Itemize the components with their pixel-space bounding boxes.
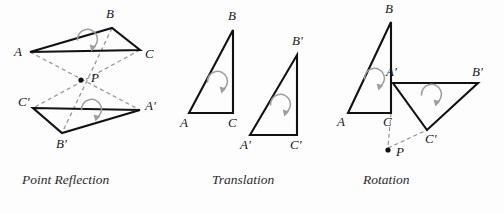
rotation-arrow-icon-preimage — [207, 71, 227, 93]
rotation-arrow-icon-image — [270, 94, 290, 116]
vertex-label-B: B — [228, 8, 236, 23]
vertex-label-A-prime: A' — [144, 98, 156, 113]
triangle-A-prime-B-prime-C-prime-image — [393, 83, 478, 130]
rotation-arrow-icon-upper — [77, 29, 97, 51]
rotation-arrow-icon-image — [421, 84, 441, 106]
vertex-label-C: C — [145, 46, 154, 61]
vertex-label-B: B — [106, 6, 114, 21]
panel-rotation: A B C A' B' C' P Rotation — [336, 1, 483, 187]
caption-translation: Translation — [212, 172, 275, 187]
vertex-label-A: A — [336, 114, 345, 129]
vertex-label-B-prime: B' — [472, 64, 483, 79]
center-point-P-dot — [78, 77, 83, 82]
connector-P-to-C-prime — [388, 130, 427, 148]
triangle-ABC-preimage — [30, 28, 140, 52]
panel-point-reflection: A B C C' A' B' P Point Reflection — [13, 6, 156, 187]
vertex-label-C-prime: C' — [18, 94, 30, 109]
vertex-label-A: A — [179, 115, 188, 130]
vertex-label-C: C — [228, 115, 237, 130]
caption-rotation: Rotation — [362, 172, 410, 187]
vertex-label-C-prime: C' — [425, 131, 437, 146]
vertex-label-C: C — [383, 114, 392, 129]
triangle-ABC-preimage — [189, 30, 233, 113]
triangle-A-prime-B-prime-C-prime-image — [33, 108, 140, 133]
vertex-label-B-prime: B' — [56, 136, 67, 151]
vertex-label-B-prime: B' — [292, 33, 303, 48]
caption-point-reflection: Point Reflection — [21, 172, 110, 187]
vertex-label-B: B — [385, 1, 393, 16]
connector-C-to-C-prime — [33, 50, 140, 108]
center-point-P-dot — [385, 147, 390, 152]
vertex-label-C-prime: C' — [290, 137, 302, 152]
connector-B-to-B-prime — [62, 28, 112, 133]
figure-canvas: A B C C' A' B' P Point Reflection — [0, 0, 504, 213]
transformations-figure: A B C C' A' B' P Point Reflection — [0, 0, 504, 213]
vertex-label-A: A — [13, 44, 22, 59]
rotation-arrow-icon-lower — [81, 99, 101, 121]
triangle-ABC-preimage — [348, 22, 391, 113]
vertex-label-P: P — [90, 70, 99, 85]
vertex-label-A-prime: A' — [239, 137, 251, 152]
triangle-A-prime-B-prime-C-prime-image — [250, 55, 297, 135]
vertex-label-P: P — [395, 144, 404, 159]
rotation-arrow-icon-preimage — [364, 68, 384, 90]
panel-translation: A B C A' B' C' Translation — [179, 8, 303, 187]
vertex-label-A-prime: A' — [385, 64, 397, 79]
